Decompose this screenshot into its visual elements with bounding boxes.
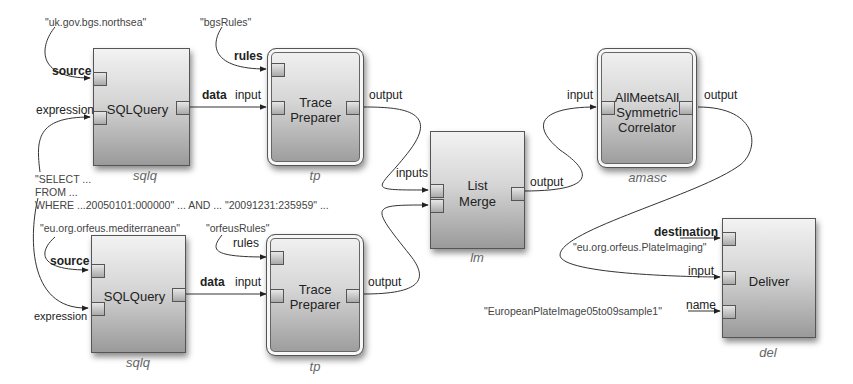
literal-sql-line1: "SELECT ... — [35, 173, 91, 186]
port-label-output: output — [369, 88, 402, 102]
input-port[interactable] — [722, 271, 736, 285]
port-label-source: source — [52, 64, 91, 78]
wire-expression-top — [38, 117, 90, 172]
literal-sql-line2: FROM ... — [35, 186, 78, 199]
instance-label-amasc: amasc — [625, 170, 670, 185]
rules-port[interactable] — [271, 63, 285, 77]
node-title-line3: Correlator — [598, 120, 696, 135]
port-label-input: input — [567, 88, 593, 102]
allmeetsall-correlator-node[interactable]: AllMeetsAll Symmetric Correlator — [597, 48, 697, 168]
literal-sql-line3: WHERE ...20050101:000000" ... AND ... "2… — [35, 199, 329, 212]
sqlquery-node-bottom[interactable]: SQLQuery — [91, 235, 186, 353]
literal-destination: "eu.org.orfeus.PlateImaging" — [573, 241, 707, 253]
port-label-output: output — [704, 88, 737, 102]
input-port[interactable] — [271, 101, 285, 115]
node-title: Deliver — [723, 274, 815, 289]
port-label-output: output — [368, 275, 401, 289]
port-label-name: name — [686, 298, 716, 312]
instance-label-del: del — [753, 345, 783, 360]
instance-label-tp-bottom: tp — [300, 359, 330, 374]
data-port[interactable] — [172, 288, 186, 302]
inputs-port-2[interactable] — [430, 199, 444, 213]
source-port[interactable] — [91, 264, 105, 278]
output-port[interactable] — [511, 187, 525, 201]
data-port[interactable] — [176, 101, 190, 115]
destination-port[interactable] — [722, 232, 736, 246]
rules-port[interactable] — [270, 251, 284, 265]
literal-name: "EuropeanPlateImage05to09sample1" — [484, 305, 662, 317]
instance-label-sqlq-top: sqlq — [125, 168, 165, 183]
output-port[interactable] — [346, 289, 360, 303]
list-merge-node[interactable]: List Merge — [430, 131, 525, 249]
instance-label-tp-top: tp — [300, 168, 330, 183]
instance-label-sqlq-bottom: sqlq — [118, 355, 158, 370]
inputs-port-1[interactable] — [430, 184, 444, 198]
sqlquery-node-top[interactable]: SQLQuery — [93, 48, 190, 166]
port-label-expression: expression — [36, 103, 94, 117]
port-label-source: source — [50, 254, 89, 268]
source-port[interactable] — [93, 72, 107, 86]
port-label-inputs: inputs — [396, 166, 428, 180]
port-label-output: output — [530, 175, 563, 189]
output-port[interactable] — [346, 101, 360, 115]
expression-port[interactable] — [93, 111, 107, 125]
trace-preparer-node-top[interactable]: Trace Preparer — [267, 48, 364, 166]
port-label-input: input — [688, 264, 714, 278]
port-label-data: data — [200, 275, 225, 289]
port-label-input: input — [235, 88, 261, 102]
input-port[interactable] — [601, 101, 615, 115]
port-label-destination: destination — [654, 225, 718, 239]
port-label-input: input — [235, 275, 261, 289]
port-label-data: data — [202, 88, 227, 102]
literal-rules-bottom: "orfeusRules" — [206, 222, 269, 234]
instance-label-lm: lm — [462, 250, 492, 265]
literal-source-bottom: "eu.org.orfeus.mediterranean" — [40, 222, 180, 234]
expression-port[interactable] — [91, 302, 105, 316]
literal-rules-top: "bgsRules" — [200, 16, 251, 28]
output-port[interactable] — [679, 101, 693, 115]
port-label-rules: rules — [233, 236, 259, 250]
input-port[interactable] — [270, 289, 284, 303]
name-port[interactable] — [722, 305, 736, 319]
deliver-node[interactable]: Deliver — [722, 218, 816, 338]
literal-source-top: "uk.gov.bgs.northsea" — [45, 16, 146, 28]
port-label-expression: expression — [34, 310, 87, 322]
port-label-rules: rules — [234, 49, 263, 63]
trace-preparer-node-bottom[interactable]: Trace Preparer — [266, 234, 364, 356]
